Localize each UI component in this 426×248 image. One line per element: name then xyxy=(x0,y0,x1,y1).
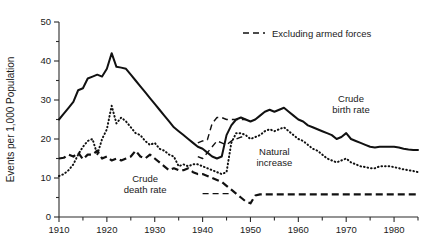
y-tick-label: 40 xyxy=(40,55,51,66)
x-tick-label: 1940 xyxy=(192,224,213,235)
y-tick-label: 50 xyxy=(40,16,51,27)
x-tick-label: 1910 xyxy=(48,224,69,235)
x-tick-label: 1960 xyxy=(288,224,309,235)
vital-rates-line-chart: 0102030405019101920193019401950196019701… xyxy=(0,0,426,248)
y-tick-label: 10 xyxy=(40,172,51,183)
y-tick-label: 0 xyxy=(46,211,51,222)
series-crude-death-rate xyxy=(59,151,418,204)
y-tick-label: 20 xyxy=(40,133,51,144)
x-tick-label: 1920 xyxy=(96,224,117,235)
y-axis-title: Events per 1,000 Population xyxy=(5,57,16,183)
x-tick-label: 1980 xyxy=(383,224,404,235)
annotation-natural-increase: Natural xyxy=(259,146,290,157)
series-birth-excluding-armed-forces xyxy=(198,118,246,143)
annotation-crude-birth-rate-line2: birth rate xyxy=(332,104,370,115)
x-tick-label: 1930 xyxy=(144,224,165,235)
x-tick-label: 1970 xyxy=(336,224,357,235)
x-tick-label: 1950 xyxy=(240,224,261,235)
series-natural-increase xyxy=(59,106,418,176)
chart-container: 0102030405019101920193019401950196019701… xyxy=(0,0,426,248)
annotation-natural-increase-line2: increase xyxy=(256,157,292,168)
annotation-crude-death-rate-line2: death rate xyxy=(124,184,167,195)
annotation-crude-birth-rate: Crude xyxy=(338,93,364,104)
y-tick-label: 30 xyxy=(40,94,51,105)
annotation-crude-death-rate: Crude xyxy=(132,173,158,184)
legend-label-excluding-armed-forces: Excluding armed forces xyxy=(272,28,372,39)
